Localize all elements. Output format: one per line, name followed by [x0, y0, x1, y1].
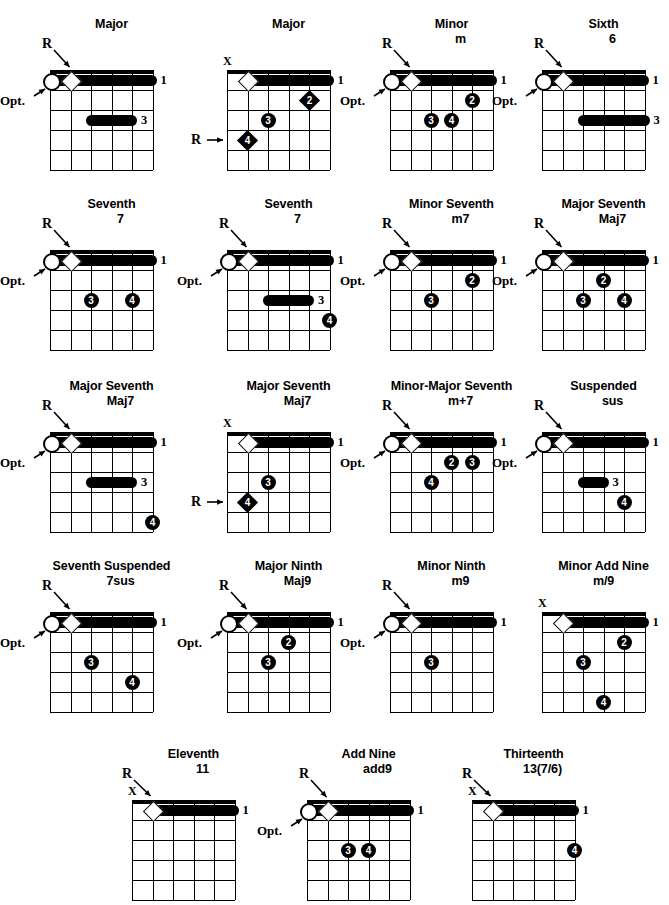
barre-finger-number: 1	[653, 254, 659, 267]
chord-diagram-seventh-suspended: Seventh Suspended7sus1ROpt.34	[28, 560, 195, 740]
muted-string-x-icon: X	[223, 55, 232, 67]
chord-name: Major Seventh	[205, 380, 372, 394]
chord-titles: Thirteenth13(7/6)	[450, 748, 617, 776]
finger-dot: 4	[125, 293, 140, 308]
root-arrow	[48, 44, 76, 73]
fret-line	[307, 820, 410, 821]
fret-line	[542, 130, 645, 131]
chord-name: Seventh	[205, 198, 372, 212]
root-arrow	[388, 44, 416, 73]
optional-arrow	[520, 83, 543, 102]
fret-line	[132, 880, 235, 881]
fret-line	[390, 110, 493, 111]
fret-line	[132, 860, 235, 861]
fret-line	[542, 652, 645, 653]
chord-diagram-minor: Minorm1ROpt.234	[368, 18, 535, 198]
finger-root-diamond-number: 4	[240, 133, 255, 148]
chord-diagram-major-1: Major1ROpt.3	[28, 18, 195, 198]
finger-dot: 3	[261, 655, 276, 670]
optional-note-label: Opt.	[340, 636, 365, 649]
fret-line	[50, 672, 153, 673]
fret-line	[542, 632, 645, 633]
fret-line	[390, 130, 493, 131]
chord-name: Major	[205, 18, 372, 32]
chord-name: Seventh	[28, 198, 195, 212]
fret-line	[227, 270, 330, 271]
barre-finger-number: 1	[653, 74, 659, 87]
chord-name: Seventh Suspended	[28, 560, 195, 574]
optional-note-label: Opt.	[340, 94, 365, 107]
chord-symbol: Maj7	[205, 395, 372, 409]
chord-diagram-major-seventh-1: Major SeventhMaj71ROpt.234	[520, 198, 669, 378]
fret-line	[390, 310, 493, 311]
fret-line	[472, 840, 575, 841]
barre-finger-number: 1	[583, 804, 589, 817]
finger-dot: 3	[424, 113, 439, 128]
chord-titles: Major	[205, 18, 372, 32]
fret-line	[132, 900, 235, 901]
fret-line	[542, 672, 645, 673]
chord-titles: Seventh7	[205, 198, 372, 226]
fret-line	[50, 170, 153, 171]
optional-note-label: Opt.	[177, 274, 202, 287]
string-line	[227, 70, 228, 170]
finger-dot: 4	[361, 843, 376, 858]
root-arrow	[388, 406, 416, 435]
fret-line	[542, 110, 645, 111]
fret-line	[390, 712, 493, 713]
finger-dot: 3	[341, 843, 356, 858]
fret-line	[50, 452, 153, 453]
fret-line	[472, 900, 575, 901]
fret-line	[227, 692, 330, 693]
fret-line	[50, 330, 153, 331]
barre-finger-number: 1	[161, 74, 167, 87]
chord-titles: Seventh Suspended7sus	[28, 560, 195, 588]
barre-finger-number: 1	[338, 616, 344, 629]
fret-line	[542, 532, 645, 533]
fret-line	[227, 712, 330, 713]
fret-line	[390, 270, 493, 271]
root-arrow	[225, 586, 253, 615]
optional-note-label: Opt.	[492, 94, 517, 107]
fret-line	[50, 290, 153, 291]
optional-arrow	[28, 445, 51, 464]
chord-diagram-minor-seventh: Minor Seventhm71ROpt.23	[368, 198, 535, 378]
nut-line	[227, 70, 330, 74]
chord-name: Major Seventh	[28, 380, 195, 394]
root-arrow	[540, 44, 568, 73]
finger-dot: 3	[261, 475, 276, 490]
fret-line	[390, 150, 493, 151]
optional-arrow	[520, 445, 543, 464]
finger-dot: 4	[145, 515, 160, 530]
finger-dot: 4	[617, 293, 632, 308]
fret-line	[227, 90, 330, 91]
barre-finger-number: 1	[501, 436, 507, 449]
fret-line	[227, 130, 330, 131]
fret-line	[227, 150, 330, 151]
barre-finger-number: 1	[338, 74, 344, 87]
fret-line	[542, 350, 645, 351]
chord-titles: Eleventh11	[110, 748, 277, 776]
fret-line	[132, 820, 235, 821]
finger-root-diamond: 4	[237, 491, 258, 512]
chord-diagram-major-ninth: Major NinthMaj91ROpt.23	[205, 560, 372, 740]
chord-name: Major Seventh	[520, 198, 669, 212]
fret-line	[50, 632, 153, 633]
finger-dot: 3	[576, 655, 591, 670]
fret-line	[390, 692, 493, 693]
barre-finger-number: 1	[653, 616, 659, 629]
fret-line	[542, 290, 645, 291]
fret-line	[50, 310, 153, 311]
fret-line	[542, 472, 645, 473]
finger-dot: 2	[596, 273, 611, 288]
fret-line	[390, 472, 493, 473]
root-arrow	[48, 224, 76, 253]
fret-line	[50, 472, 153, 473]
root-label: R	[191, 495, 201, 509]
fret-line	[307, 900, 410, 901]
fret-line	[390, 350, 493, 351]
barre-finger-number: 1	[161, 254, 167, 267]
chord-symbol: m/9	[520, 575, 669, 589]
chord-diagram-minor-ninth: Minor Ninthm91ROpt.3	[368, 560, 535, 740]
fret-line	[50, 712, 153, 713]
